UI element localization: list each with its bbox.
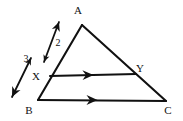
measure-arrowhead-up-icon [52, 21, 63, 32]
vertex-label-b: B [25, 104, 32, 116]
vertex-label-y: Y [136, 62, 144, 74]
vertex-label-x: X [32, 70, 40, 82]
measure-label-3: 3 [24, 53, 29, 64]
geometry-diagram-canvas: A B C X Y 2 3 [0, 0, 183, 121]
vertex-label-a: A [74, 4, 82, 16]
measure-label-2: 2 [56, 37, 61, 48]
geometry-figure: A B C X Y 2 3 [0, 0, 183, 121]
vertex-label-c: C [164, 104, 171, 116]
triangle-side-ac [82, 25, 166, 101]
measure-arrow-lower [8, 57, 34, 99]
measure-arrowhead-down-icon [8, 86, 21, 99]
triangle-side-bc [38, 100, 166, 101]
measure-arrowhead-down-icon-upper [41, 54, 49, 63]
